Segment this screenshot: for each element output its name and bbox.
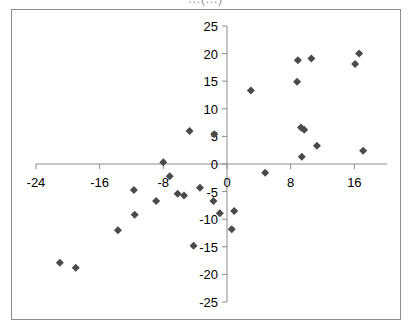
x-tick-label: 8 xyxy=(287,175,294,190)
y-tick-label: -25 xyxy=(199,295,218,310)
y-tick-label: 20 xyxy=(204,47,218,62)
data-point-diamond xyxy=(152,197,160,205)
data-point-diamond xyxy=(186,127,194,135)
data-point-diamond xyxy=(114,226,122,234)
data-point-diamond xyxy=(355,50,363,58)
data-point-diamond xyxy=(359,147,367,155)
y-tick-label: -15 xyxy=(199,240,218,255)
data-point-diamond xyxy=(174,190,182,198)
y-tick-label: 15 xyxy=(204,74,218,89)
data-point-diamond xyxy=(351,60,359,68)
y-tick-label: 0 xyxy=(211,157,218,172)
data-point-diamond xyxy=(294,56,302,64)
x-tick-label: -16 xyxy=(90,175,109,190)
data-point-diamond xyxy=(307,55,315,63)
data-point-diamond xyxy=(298,153,306,161)
data-point-diamond xyxy=(313,142,321,150)
y-tick-label: -20 xyxy=(199,267,218,282)
x-tick-label: 16 xyxy=(347,175,361,190)
y-tick-label: -10 xyxy=(199,212,218,227)
data-point-diamond xyxy=(159,158,167,166)
y-tick-label: 10 xyxy=(204,102,218,117)
data-point-diamond xyxy=(130,186,138,194)
y-tick-label: 25 xyxy=(204,19,218,34)
data-point-diamond xyxy=(228,225,236,233)
scatter-plot: -24-16-80816-25-20-15-10-50510152025 xyxy=(0,0,410,334)
data-point-diamond xyxy=(230,207,238,215)
data-point-diamond xyxy=(261,169,269,177)
data-point-diamond xyxy=(180,191,188,199)
data-point-diamond xyxy=(131,211,139,219)
data-point-diamond xyxy=(190,242,198,250)
data-point-diamond xyxy=(293,78,301,86)
y-tick-label: -5 xyxy=(206,185,218,200)
data-point-diamond xyxy=(247,87,255,95)
data-point-diamond xyxy=(72,264,80,272)
x-tick-label: -24 xyxy=(27,175,46,190)
x-tick-label: 0 xyxy=(223,175,230,190)
data-point-diamond xyxy=(196,184,204,192)
data-point-diamond xyxy=(56,259,64,267)
